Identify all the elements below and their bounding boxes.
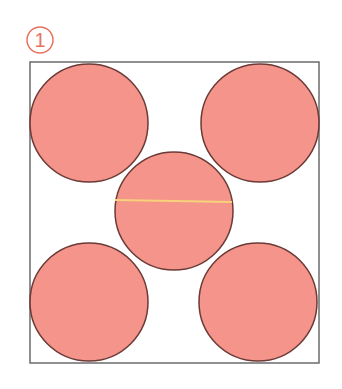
- circle-1: [30, 64, 148, 182]
- circles-group: [30, 64, 319, 361]
- number-label: 1: [27, 27, 53, 53]
- circle-3: [115, 152, 233, 270]
- circle-2: [201, 64, 319, 182]
- circle-5: [199, 243, 317, 361]
- circle-4: [30, 243, 148, 361]
- diagram-canvas: 1: [0, 0, 342, 389]
- label-number: 1: [34, 29, 45, 51]
